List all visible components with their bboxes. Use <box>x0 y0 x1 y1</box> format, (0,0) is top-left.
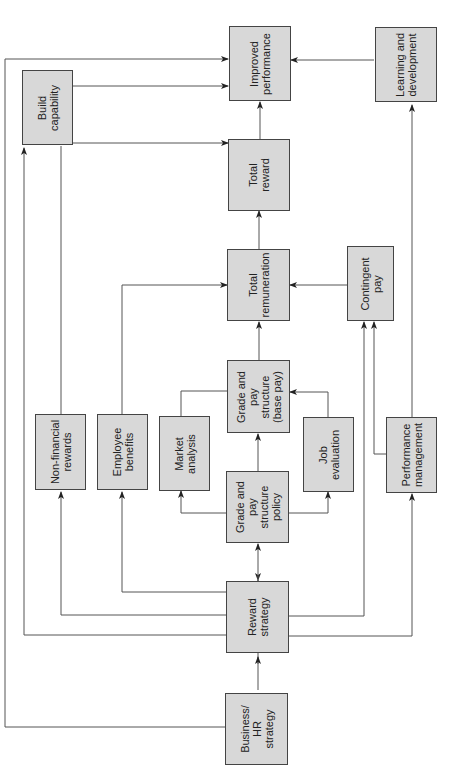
node-business-hr-strategy: Business/ HR strategy <box>225 693 288 765</box>
node-label: Employee benefits <box>111 428 135 477</box>
node-label: Market analysis <box>173 434 197 474</box>
node-reward-strategy: Reward strategy <box>226 581 289 653</box>
node-improved-performance: Improved performance <box>229 26 291 101</box>
node-grade-pay-structure-policy: Grade and pay structure policy <box>226 471 289 543</box>
node-label: Learning and development <box>394 32 418 96</box>
node-label: Reward strategy <box>246 597 270 636</box>
node-market-analysis: Market analysis <box>159 416 210 491</box>
node-job-evaluation: Job evaluation <box>303 417 354 492</box>
node-label: Grade and pay structure (base pay) <box>235 371 283 423</box>
node-employee-benefits: Employee benefits <box>97 414 148 490</box>
node-total-remuneration: Total remuneration <box>227 249 290 321</box>
node-performance-management: Performance management <box>386 417 437 493</box>
node-learning-and-development: Learning and development <box>375 27 437 102</box>
node-label: Performance management <box>400 423 424 487</box>
node-label: Build capability <box>36 85 60 131</box>
node-label: Grade and pay structure policy <box>234 481 282 533</box>
node-label: Improved performance <box>248 33 272 95</box>
node-contingent-pay: Contingent pay <box>347 246 394 321</box>
node-label: Total remuneration <box>247 253 271 318</box>
node-label: Total reward <box>247 158 271 192</box>
node-total-reward: Total reward <box>228 139 290 211</box>
node-label: Job evaluation <box>317 429 341 479</box>
node-grade-pay-structure-base-pay: Grade and pay structure (base pay) <box>227 360 290 433</box>
node-label: Non-financial rewards <box>49 420 73 484</box>
node-label: Business/ HR strategy <box>239 705 275 753</box>
node-non-financial-rewards: Non-financial rewards <box>35 414 86 490</box>
node-label: Contingent pay <box>359 257 383 310</box>
node-build-capability: Build capability <box>22 70 73 145</box>
